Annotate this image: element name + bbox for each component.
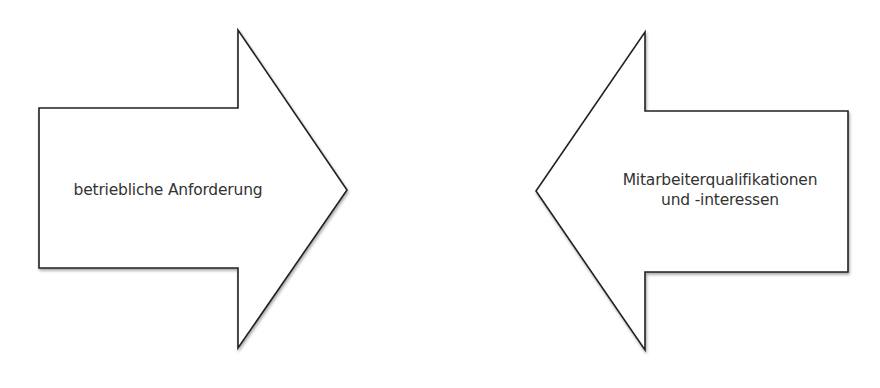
label-line: betriebliche Anforderung <box>56 180 280 200</box>
label-line: und -interessen <box>600 190 840 210</box>
label-line: Mitarbeiterqualifikationen <box>600 170 840 190</box>
left-arrow-label: betriebliche Anforderung <box>56 180 280 200</box>
right-arrow-label: Mitarbeiterqualifikationen und -interess… <box>600 170 840 210</box>
